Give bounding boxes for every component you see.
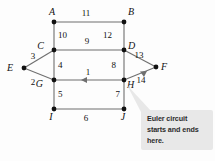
node-dot-E [22, 66, 27, 71]
edge-label-11: 11 [82, 8, 91, 18]
node-dot-D [122, 48, 127, 53]
callout-line-2: starts and ends [147, 125, 199, 134]
edge-label-6: 6 [84, 113, 89, 123]
edge-label-10: 10 [58, 30, 68, 40]
node-label-C: C [37, 40, 44, 51]
node-label-I: I [48, 111, 53, 122]
node-dot-F [154, 65, 159, 70]
edge-label-5: 5 [58, 89, 63, 99]
node-dot-H [122, 78, 127, 83]
node-label-J: J [121, 111, 126, 122]
edge-label-3: 3 [31, 51, 36, 61]
node-dot-G [52, 78, 57, 83]
graph-canvas: A B C D E F G H I J 11 10 12 9 3 2 4 8 1… [0, 0, 215, 161]
node-label-B: B [128, 6, 134, 17]
callout-tail [127, 85, 152, 112]
arrowhead-edge-1-leftward [81, 77, 87, 83]
node-dot-B [122, 20, 127, 25]
edge-label-12: 12 [103, 30, 112, 40]
edge-label-1: 1 [86, 67, 91, 77]
edge-label-2: 2 [31, 77, 36, 87]
node-label-G: G [36, 78, 43, 89]
edge-E-C [24, 50, 54, 68]
node-dot-C [52, 48, 57, 53]
edge-label-4: 4 [58, 60, 63, 70]
edge-label-7: 7 [116, 89, 121, 99]
edge-label-9: 9 [85, 36, 90, 46]
node-label-E: E [6, 62, 13, 73]
callout-annotation: Euler circuit starts and ends here. [127, 85, 213, 150]
callout-line-1: Euler circuit [147, 114, 188, 123]
edge-label-layer: 11 10 12 9 3 2 4 8 13 1 14 5 7 6 [31, 8, 146, 123]
node-label-H: H [126, 79, 135, 90]
edge-label-8: 8 [112, 60, 117, 70]
callout-line-3: here. [147, 136, 164, 145]
node-label-A: A [48, 6, 56, 17]
node-label-F: F [160, 61, 168, 72]
edge-label-13: 13 [135, 50, 145, 60]
edge-label-14: 14 [137, 75, 147, 85]
euler-circuit-diagram: A B C D E F G H I J 11 10 12 9 3 2 4 8 1… [0, 0, 215, 161]
node-dot-A [52, 20, 57, 25]
